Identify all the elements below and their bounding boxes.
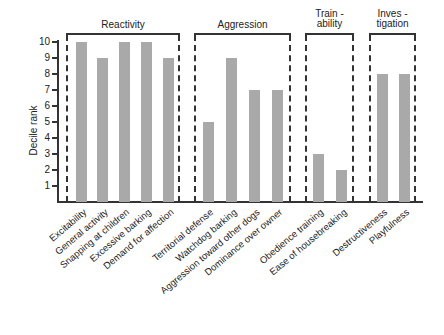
y-tick <box>52 57 58 59</box>
bar <box>377 74 388 202</box>
y-tick-label: 8 <box>30 69 50 79</box>
decile-rank-bar-chart: Decile rank 12345678910 ReactivityAggres… <box>0 0 444 335</box>
bar <box>76 42 87 202</box>
group-title-investigation: Inves -tigation <box>359 9 426 29</box>
y-tick-label: 6 <box>30 101 50 111</box>
y-tick-label: 1 <box>30 181 50 191</box>
y-tick-label: 3 <box>30 149 50 159</box>
y-tick <box>52 105 58 107</box>
bar <box>399 74 410 202</box>
y-tick-label: 9 <box>30 53 50 63</box>
bar <box>119 42 130 202</box>
y-tick-label: 4 <box>30 133 50 143</box>
bar <box>141 42 152 202</box>
y-tick <box>52 73 58 75</box>
bar <box>163 58 174 202</box>
x-tick-label: Aggression toward other dogs <box>158 206 262 296</box>
y-tick <box>52 153 58 155</box>
bar <box>272 90 283 202</box>
y-tick-label: 2 <box>30 165 50 175</box>
y-tick-label: 10 <box>30 37 50 47</box>
bar <box>97 58 108 202</box>
group-title-reactivity: Reactivity <box>56 20 190 30</box>
y-tick-label: 7 <box>30 85 50 95</box>
y-tick <box>52 89 58 91</box>
y-tick <box>52 169 58 171</box>
y-tick <box>52 137 58 139</box>
y-tick <box>52 185 58 187</box>
bar <box>226 58 237 202</box>
y-tick <box>52 41 58 43</box>
group-title-trainability: Train -ability <box>295 9 364 29</box>
group-title-aggression: Aggression <box>184 20 301 30</box>
y-tick <box>52 121 58 123</box>
bar <box>203 122 214 202</box>
bar <box>336 170 347 202</box>
y-tick-label: 5 <box>30 117 50 127</box>
bar <box>313 154 324 202</box>
bar <box>249 90 260 202</box>
